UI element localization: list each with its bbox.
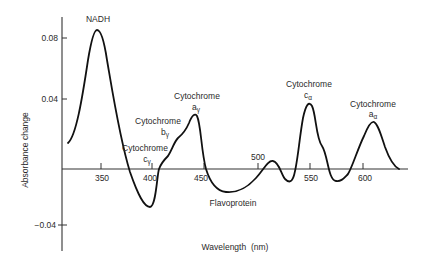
- annotation-cyt-b-gamma-sub: bγ: [161, 127, 170, 139]
- x-tick-500: 500: [251, 152, 265, 162]
- annotation-flavoprotein: Flavoprotein: [210, 198, 257, 208]
- spectrum-curve: [68, 30, 399, 207]
- annotation-cyt-a-gamma-sub: aγ: [192, 102, 201, 114]
- x-tick-450: 450: [194, 173, 208, 183]
- annotation-cyt-c-gamma: Cytochrome: [122, 143, 168, 153]
- y-axis-title: Absorbance change: [20, 112, 30, 188]
- x-tick-350: 350: [95, 173, 109, 183]
- annotation-cyt-b-gamma: Cytochrome: [135, 116, 181, 126]
- y-tick-0.08: 0.08: [41, 33, 58, 43]
- annotation-cyt-a-alpha-sub: aα: [369, 109, 378, 120]
- x-tick-600: 600: [358, 173, 372, 183]
- x-tick-400: 400: [143, 173, 157, 183]
- y-tick-neg-0.04: −0.04: [34, 220, 56, 230]
- annotation-cyt-a-gamma: Cytochrome: [174, 91, 220, 101]
- annotation-nadh: NADH: [86, 14, 110, 24]
- spectrum-chart: 0.08 0.04 −0.04 350 400 450 500 550 600 …: [0, 0, 425, 268]
- annotation-cyt-c-gamma-sub: cγ: [143, 154, 151, 166]
- annotation-cyt-c-alpha: Cytochrome: [286, 79, 332, 89]
- annotation-cyt-a-alpha: Cytochrome: [350, 99, 396, 109]
- y-tick-0.04: 0.04: [41, 94, 58, 104]
- x-axis-title: Wavelength (nm): [202, 242, 269, 252]
- x-tick-550: 550: [304, 173, 318, 183]
- annotation-cyt-c-alpha-sub: cα: [304, 90, 312, 101]
